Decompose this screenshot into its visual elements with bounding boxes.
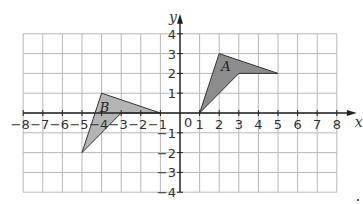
x-axis-label: x — [355, 114, 363, 130]
y-tick-label: −1 — [157, 126, 176, 141]
x-tick-label: −3 — [109, 117, 128, 132]
x-tick-label: 2 — [215, 117, 223, 132]
x-tick-label: 4 — [254, 117, 262, 132]
y-axis-arrow-icon — [177, 14, 183, 24]
y-tick-label: −3 — [157, 165, 176, 180]
x-tick-label: 8 — [333, 117, 341, 132]
y-tick-label: 3 — [168, 47, 176, 62]
x-tick-label: −2 — [128, 117, 147, 132]
scan-artifact-mark — [357, 199, 359, 201]
x-tick-label: 5 — [274, 117, 282, 132]
coordinate-grid-diagram: AB −8−7−6−5−4−3−2−1123456784321−1−2−3−40… — [0, 0, 363, 204]
x-tick-label: −4 — [89, 117, 108, 132]
y-axis-label: y — [168, 9, 178, 25]
x-tick-label: 6 — [293, 117, 301, 132]
y-tick-label: −4 — [157, 185, 176, 200]
shape-label-a: A — [220, 59, 230, 74]
y-tick-label: 2 — [168, 66, 176, 81]
x-tick-label: −5 — [69, 117, 88, 132]
y-tick-label: 4 — [168, 27, 176, 42]
x-tick-label: 7 — [313, 117, 321, 132]
origin-label: 0 — [184, 115, 192, 130]
y-tick-label: −2 — [157, 146, 176, 161]
y-tick-label: 1 — [168, 86, 176, 101]
x-tick-label: −8 — [11, 117, 30, 132]
x-tick-label: −7 — [30, 117, 49, 132]
x-tick-label: −6 — [50, 117, 69, 132]
x-tick-label: 3 — [235, 117, 243, 132]
tick-labels: −8−7−6−5−4−3−2−1123456784321−1−2−3−40xy — [11, 9, 363, 200]
x-tick-label: 1 — [195, 117, 203, 132]
axes — [23, 14, 357, 192]
